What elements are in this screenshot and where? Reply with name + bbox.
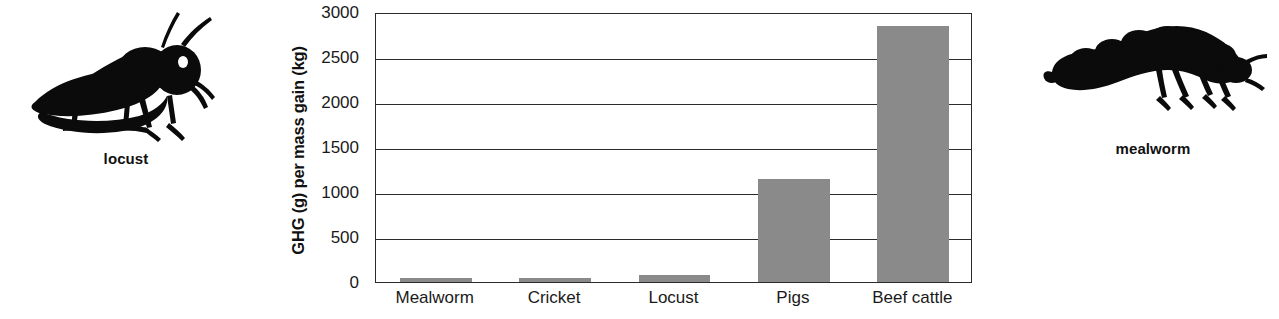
y-tick-label: 0	[350, 273, 359, 293]
bar-beef-cattle	[877, 26, 949, 282]
locust-silhouette-icon	[11, 0, 241, 150]
bar-mealworm	[400, 278, 472, 282]
x-tick-label: Pigs	[776, 288, 809, 308]
x-axis-labels: MealwormCricketLocustPigsBeef cattle	[375, 288, 972, 318]
locust-caption: locust	[104, 150, 149, 167]
y-tick-label: 2000	[321, 93, 359, 113]
bar-locust	[639, 275, 711, 282]
bars-layer	[376, 14, 971, 282]
y-tick-label: 1000	[321, 183, 359, 203]
y-tick-label: 1500	[321, 138, 359, 158]
mealworm-silhouette-icon	[1038, 0, 1268, 140]
y-tick-label: 3000	[321, 3, 359, 23]
mealworm-caption: mealworm	[1116, 140, 1191, 157]
bar-chart: GHG (g) per mass gain (kg) 0500100015002…	[252, 0, 1027, 319]
y-axis-ticks: 050010001500200025003000	[298, 0, 366, 319]
locust-illustration-panel: locust	[0, 0, 252, 319]
y-tick-label: 2500	[321, 48, 359, 68]
bar-cricket	[519, 278, 591, 283]
x-tick-label: Locust	[648, 288, 698, 308]
bar-pigs	[758, 179, 830, 283]
x-tick-label: Cricket	[528, 288, 581, 308]
x-tick-label: Beef cattle	[872, 288, 952, 308]
x-tick-label: Mealworm	[395, 288, 473, 308]
y-tick-label: 500	[331, 228, 359, 248]
figure-root: locust GHG (g) per mass gain (kg) 050010…	[0, 0, 1279, 319]
plot-area	[375, 13, 972, 283]
mealworm-illustration-panel: mealworm	[1027, 0, 1279, 319]
